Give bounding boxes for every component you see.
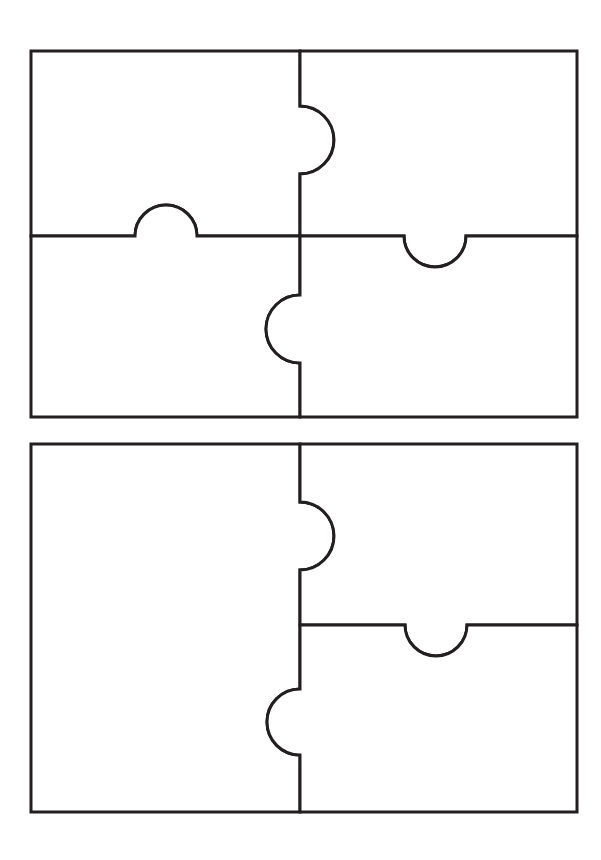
puzzle-worksheet (0, 0, 601, 860)
puzzle-piece-bottom-right[interactable] (266, 236, 577, 417)
puzzle-piece-left-tall[interactable] (31, 444, 334, 812)
puzzle-worksheet-canvas (0, 0, 601, 860)
puzzle-piece-bottom-left[interactable] (31, 205, 300, 417)
puzzle-bottom (31, 444, 577, 812)
puzzle-top (31, 51, 577, 417)
puzzle-piece-right-bottom[interactable] (267, 625, 577, 812)
